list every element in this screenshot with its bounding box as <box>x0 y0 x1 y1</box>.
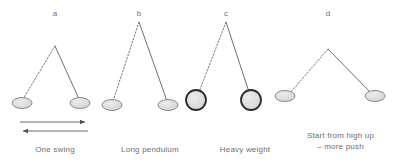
pendulum-c-bob-left-heavy <box>186 90 206 110</box>
pendulum-d-rod-left <box>290 49 328 93</box>
pendulum-c-bob-right-heavy <box>241 90 261 110</box>
panel-letter-d: d <box>318 9 338 19</box>
panel-letter-a: a <box>45 9 65 19</box>
pendulum-a-bob-left <box>12 98 32 109</box>
pendulum-figure: a b c d One swing Long pendulum Heavy we… <box>0 0 400 165</box>
pendulum-c-rod-left <box>199 22 226 92</box>
panel-caption-start-from-high-up: Start from high up – more push <box>283 130 398 152</box>
pendulum-b-bob-left <box>102 100 122 111</box>
panel-caption-long-pendulum: Long pendulum <box>95 144 205 155</box>
pendulum-d-rod-right <box>328 49 371 93</box>
pendulum-panel-d <box>275 49 385 102</box>
pendulum-panel-c <box>186 22 261 110</box>
panel-letter-c: c <box>216 9 236 19</box>
pendulum-panel-b <box>102 22 178 111</box>
pendulum-a-rod-right <box>55 46 79 99</box>
pendulum-c-rod-right <box>226 22 249 92</box>
panel-caption-one-swing: One swing <box>0 144 110 155</box>
pendulum-b-rod-left <box>113 22 139 101</box>
pendulum-d-bob-right <box>365 91 385 102</box>
pendulum-a-bob-right <box>70 98 90 109</box>
pendulum-b-bob-right <box>158 100 178 111</box>
panel-letter-b: b <box>129 9 149 19</box>
pendulum-a-rod-left <box>23 46 55 99</box>
pendulum-b-rod-right <box>139 22 167 101</box>
pendulum-d-bob-left <box>275 91 295 102</box>
pendulum-panel-a <box>12 46 90 131</box>
